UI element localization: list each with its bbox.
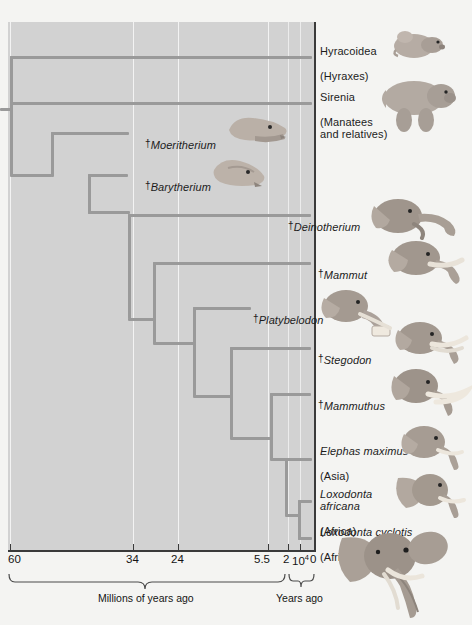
taxon-label-deinotherium: †Deinotherium <box>288 207 360 233</box>
stegodon-head-illustration <box>392 320 472 366</box>
branch-link-to-stegodon-node <box>193 395 233 398</box>
branch-terminal-deinotherium <box>128 214 311 217</box>
axis-label-10k-exponent: 4 <box>305 553 309 562</box>
axis-label-5-5: 5.5 <box>254 553 270 565</box>
hyrax-illustration <box>390 28 446 62</box>
axis-label-10k: 104 <box>292 553 309 567</box>
branch-terminal-mammuthus <box>270 393 311 396</box>
manatee-illustration <box>378 72 458 136</box>
taxon-label-mammuthus: †Mammuthus <box>318 386 385 412</box>
branch-terminal-hyracoidea <box>10 56 312 59</box>
branch-terminal-loxodonta-africana <box>298 500 312 503</box>
branch-node-mammut-vertical <box>153 262 156 344</box>
branch-node-loxodonta-vertical <box>298 500 301 540</box>
axis-tick-34 <box>133 544 134 551</box>
forest-elephant-head-illustration <box>338 528 458 622</box>
branch-node-moeritherium-vertical <box>51 132 54 177</box>
axis-tick-10k <box>300 544 301 551</box>
taxon-name-barytherium: Barytherium <box>151 181 211 193</box>
taxon-label-hyracoidea: Hyracoidea (Hyraxes) <box>320 32 377 82</box>
branch-node-platybelodon-vertical <box>193 307 196 397</box>
branch-node-basal-vertical <box>10 56 13 176</box>
taxon-label-platybelodon: †Platybelodon <box>253 300 323 326</box>
taxon-name-platybelodon: Platybelodon <box>259 314 324 326</box>
mammoth-head-illustration <box>390 368 472 418</box>
taxon-name-sirenia: Sirenia <box>320 91 355 103</box>
branch-node-mammuthus-vertical <box>270 393 273 460</box>
branch-terminal-platybelodon <box>193 307 251 310</box>
time-axis-line <box>8 550 316 552</box>
axis-label-0: 0 <box>310 553 316 565</box>
mammut-head-illustration <box>386 238 470 286</box>
deinotherium-head-illustration <box>370 196 462 240</box>
branch-terminal-moeritherium <box>51 132 129 135</box>
branch-terminal-sirenia <box>10 102 312 105</box>
branch-terminal-loxodonta-cyclotis <box>298 537 312 540</box>
axis-label-10k-base: 10 <box>292 555 305 567</box>
taxon-label-moeritherium: †Moeritherium <box>145 125 216 151</box>
moeritherium-skull-illustration <box>225 110 291 148</box>
asian-elephant-head-illustration <box>398 424 472 472</box>
axis-tick-0 <box>314 544 315 551</box>
branch-node-stegodon-vertical <box>230 347 233 439</box>
branch-terminal-stegodon <box>230 347 311 350</box>
branch-terminal-elephas <box>270 458 312 461</box>
taxon-name-mammuthus: Mammuthus <box>324 400 385 412</box>
axis-tick-5-5 <box>268 544 269 551</box>
branch-node-barytherium-vertical <box>88 174 91 214</box>
taxon-name-elephas-maximus: Elephas maximus <box>320 445 408 457</box>
axis-tick-24 <box>178 544 179 551</box>
taxon-name-moeritherium: Moeritherium <box>151 139 216 151</box>
branch-link-to-mammut-node <box>128 318 156 321</box>
axis-brackets <box>0 572 330 594</box>
taxon-name-stegodon: Stegodon <box>324 354 372 366</box>
tree-plot-area <box>8 22 316 550</box>
branch-stem-elephantiformes <box>88 211 130 214</box>
branch-link-to-platybelodon-node <box>153 342 196 345</box>
taxon-name-loxodonta-africana: Loxodonta africana <box>320 488 372 513</box>
axis-label-60: 60 <box>8 553 21 565</box>
figure-root: Hyracoidea (Hyraxes) Sirenia (Manatees a… <box>0 0 472 625</box>
taxon-label-barytherium: †Barytherium <box>145 167 211 193</box>
axis-label-2: 2 <box>283 553 289 565</box>
taxon-name-hyracoidea: Hyracoidea <box>320 45 377 57</box>
bracket-label-millions: Millions of years ago <box>98 592 194 604</box>
branch-terminal-barytherium <box>88 174 128 177</box>
branch-node-deinotherium-vertical <box>128 214 131 319</box>
barytherium-skull-illustration <box>208 152 270 192</box>
axis-tick-2 <box>288 544 289 551</box>
taxon-label-mammut: †Mammut <box>318 255 367 281</box>
african-elephant-head-illustration <box>396 470 472 520</box>
branch-terminal-mammut <box>153 262 311 265</box>
axis-label-34: 34 <box>126 553 139 565</box>
taxon-label-stegodon: †Stegodon <box>318 340 372 366</box>
branch-node-elephas-vertical <box>285 458 288 516</box>
taxon-name-deinotherium: Deinotherium <box>294 221 361 233</box>
branch-link-to-loxodonta-node <box>285 514 300 517</box>
branch-link-to-mammuthus-node <box>230 437 273 440</box>
taxon-name-mammut: Mammut <box>324 269 367 281</box>
branch-stem-proboscidea <box>10 174 52 177</box>
axis-tick-60 <box>10 544 11 551</box>
bracket-label-years: Years ago <box>276 592 323 604</box>
axis-label-24: 24 <box>171 553 184 565</box>
